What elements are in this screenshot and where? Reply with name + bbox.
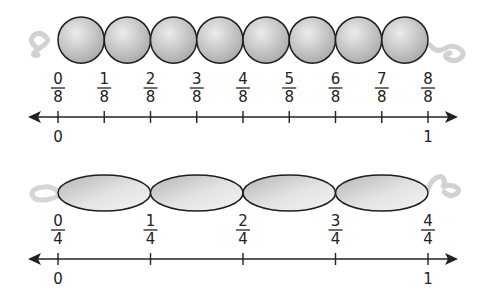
top-axis-label-one: 1 (423, 128, 433, 146)
fraction-denominator: 8 (238, 88, 248, 106)
bead-2 (104, 17, 150, 63)
bead-1 (58, 17, 104, 63)
fraction-label: 44 (421, 212, 435, 248)
fraction-denominator: 4 (53, 230, 63, 248)
top-fraction-labels: 081828384858687888 (51, 70, 435, 106)
fraction-label: 48 (236, 70, 250, 106)
fraction-denominator: 4 (146, 230, 156, 248)
top-axis-labels: 0 1 (53, 128, 433, 146)
top-bead-string (31, 17, 463, 63)
top-number-line (28, 111, 458, 123)
fraction-label: 24 (236, 212, 250, 248)
fraction-label: 04 (51, 212, 65, 248)
fraction-denominator: 8 (192, 88, 202, 106)
fraction-label: 68 (329, 70, 343, 106)
fraction-label: 18 (97, 70, 111, 106)
bead-1 (58, 175, 151, 211)
fraction-numerator: 2 (146, 70, 156, 88)
fraction-numerator: 1 (146, 212, 156, 230)
string-tail-left-icon (31, 33, 47, 55)
fraction-numerator: 4 (423, 212, 433, 230)
fraction-numerator: 1 (99, 70, 109, 88)
bead-5 (243, 17, 289, 63)
fraction-numerator: 6 (331, 70, 341, 88)
fraction-numerator: 4 (238, 70, 248, 88)
bead-2 (151, 175, 244, 211)
bottom-fraction-labels: 0414243444 (51, 212, 435, 248)
fraction-denominator: 4 (423, 230, 433, 248)
fraction-label: 08 (51, 70, 65, 106)
fraction-label: 58 (282, 70, 296, 106)
fraction-denominator: 8 (423, 88, 433, 106)
fraction-denominator: 8 (284, 88, 294, 106)
fraction-numerator: 3 (331, 212, 341, 230)
fraction-numerator: 2 (238, 212, 248, 230)
fraction-number-line-diagram: 081828384858687888 0 1 0414243444 0 1 (0, 0, 491, 300)
fraction-label: 34 (329, 212, 343, 248)
fraction-denominator: 8 (377, 88, 387, 106)
string-tail-left-icon (32, 187, 58, 200)
bead-8 (382, 17, 428, 63)
bead-7 (336, 17, 382, 63)
bead-3 (243, 175, 336, 211)
fraction-denominator: 8 (146, 88, 156, 106)
bottom-axis-label-zero: 0 (53, 270, 63, 288)
fraction-denominator: 8 (331, 88, 341, 106)
bottom-number-line (28, 253, 458, 265)
fraction-numerator: 8 (423, 70, 433, 88)
string-tail-right-icon (428, 176, 459, 195)
string-tail-right-icon (430, 45, 463, 61)
fraction-numerator: 0 (53, 70, 63, 88)
bead-4 (197, 17, 243, 63)
bottom-axis-labels: 0 1 (53, 270, 433, 288)
bottom-bead-string (32, 175, 459, 211)
fraction-label: 28 (144, 70, 158, 106)
bead-3 (151, 17, 197, 63)
bead-6 (289, 17, 335, 63)
fraction-denominator: 4 (331, 230, 341, 248)
fraction-label: 38 (190, 70, 204, 106)
fraction-numerator: 3 (192, 70, 202, 88)
fraction-denominator: 8 (53, 88, 63, 106)
fraction-numerator: 0 (53, 212, 63, 230)
fraction-denominator: 4 (238, 230, 248, 248)
fraction-label: 14 (144, 212, 158, 248)
bottom-axis-label-one: 1 (423, 270, 433, 288)
top-axis-label-zero: 0 (53, 128, 63, 146)
fraction-label: 78 (375, 70, 389, 106)
bead-4 (336, 175, 429, 211)
fraction-numerator: 7 (377, 70, 387, 88)
fraction-numerator: 5 (284, 70, 294, 88)
fraction-denominator: 8 (99, 88, 109, 106)
fraction-label: 88 (421, 70, 435, 106)
